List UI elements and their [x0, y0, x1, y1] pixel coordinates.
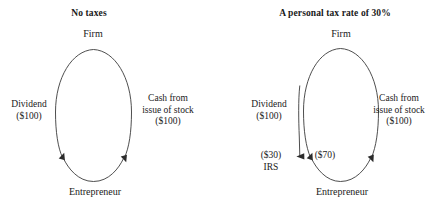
cash-text-line2: issue of stock	[130, 105, 206, 117]
irs-recipient: IRS	[249, 162, 293, 174]
cash-amount: ($100)	[130, 116, 206, 128]
ellipse-lower-left-arc	[312, 159, 341, 182]
panel-personal-tax: A personal tax rate of 30%	[223, 0, 447, 208]
node-label-entrepreneur: Entrepreneur	[50, 186, 140, 198]
net-amount: ($70)	[306, 150, 344, 162]
dividend-amount: ($100)	[0, 111, 60, 123]
panel-no-taxes: No taxes Firm Entrepreneur Dividend	[0, 0, 223, 208]
node-label-entrepreneur: Entrepreneur	[297, 186, 387, 198]
edge-label-net-amount: ($70)	[306, 150, 344, 162]
edge-label-dividend: Dividend ($100)	[238, 99, 300, 122]
edge-label-cash-from-issue: Cash from issue of stock ($100)	[355, 93, 443, 128]
irs-amount: ($30)	[249, 150, 293, 162]
cash-text-line2: issue of stock	[355, 105, 443, 117]
net-dividend-flow-arrow	[304, 49, 341, 158]
dividend-text: Dividend	[0, 99, 60, 111]
node-label-firm: Firm	[58, 28, 128, 40]
ellipse-lower-left-arc	[64, 159, 94, 182]
dividend-amount: ($100)	[238, 111, 300, 123]
diagram-canvas: No taxes Firm Entrepreneur Dividend	[0, 0, 447, 208]
ellipse-lower-right-arc	[341, 159, 371, 182]
ellipse-lower-right-arc	[94, 159, 124, 182]
edge-label-dividend: Dividend ($100)	[0, 99, 60, 122]
cash-amount: ($100)	[355, 116, 443, 128]
dividend-flow-arrow	[56, 50, 94, 158]
cash-text-line1: Cash from	[355, 93, 443, 105]
edge-label-irs-tax: ($30) IRS	[249, 150, 293, 173]
node-label-firm: Firm	[306, 28, 376, 40]
dividend-text: Dividend	[238, 99, 300, 111]
cash-flow-arrow	[94, 50, 132, 158]
cash-text-line1: Cash from	[130, 93, 206, 105]
edge-label-cash-from-issue: Cash from issue of stock ($100)	[130, 93, 206, 128]
